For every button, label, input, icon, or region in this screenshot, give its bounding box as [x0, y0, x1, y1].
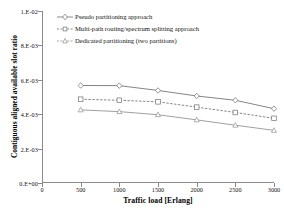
x-tick-mark	[158, 183, 159, 187]
legend-label: Multi-path routing/spectrum splitting ap…	[75, 25, 199, 33]
legend-label: Dedicated partitioning (two partitions)	[75, 37, 177, 45]
x-tick-label: 1500	[152, 186, 164, 193]
legend-item: Dedicated partitioning (two partitions)	[57, 35, 257, 47]
y-axis-title: Contiguous aligned available slot ratio	[10, 7, 19, 187]
chart-figure: 1.E-02 8.E-03 6.E-03 4.E-03 2.E-03 0.E+0…	[0, 0, 284, 215]
legend-marker-triangle-icon	[57, 37, 73, 45]
legend-item: Multi-path routing/spectrum splitting ap…	[57, 23, 257, 35]
x-tick-mark	[119, 183, 120, 187]
x-tick-label: 2000	[191, 186, 203, 193]
x-tick-label: 0	[40, 186, 43, 193]
x-axis-title: Traffic load [Erlang]	[42, 196, 274, 205]
legend-label: Pseudo partitioning approach	[75, 13, 152, 21]
x-tick-mark	[197, 183, 198, 187]
chart-legend: Pseudo partitioning approach Multi-path …	[57, 11, 257, 47]
x-tick-label: 3000	[268, 186, 280, 193]
legend-item: Pseudo partitioning approach	[57, 11, 257, 23]
x-tick-mark	[274, 183, 275, 187]
x-tick-label: 1000	[113, 186, 125, 193]
legend-marker-square-icon	[57, 25, 73, 33]
x-tick-label: 500	[76, 186, 85, 193]
x-tick-mark	[81, 183, 82, 187]
x-tick-label: 2500	[229, 186, 241, 193]
legend-marker-diamond-icon	[57, 13, 73, 21]
x-tick-mark	[42, 183, 43, 187]
x-tick-mark	[235, 183, 236, 187]
